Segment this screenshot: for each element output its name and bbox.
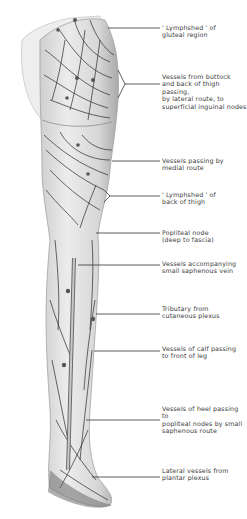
label-calf-vessels: Vessels of calf passing to front of leg: [162, 345, 247, 360]
leg-silhouette: [40, 19, 118, 507]
label-heel-vessels: Vessels of heel passing to popliteal nod…: [162, 405, 247, 435]
label-plantar-plexus-vessels: Lateral vessels from plantar plexus: [162, 467, 247, 482]
label-back-of-thigh-lymphshed: ' Lymphshed ' of back of thigh: [162, 191, 247, 206]
label-small-saphenous-vessels: Vessels accompanying small saphenous vei…: [162, 260, 247, 275]
label-lateral-route-vessels: Vessels from buttock and back of thigh p…: [162, 73, 247, 110]
label-popliteal-node: Popliteal node (deep to fascia): [162, 229, 247, 244]
label-cutaneous-plexus-tributary: Tributary from cutaneous plexus: [162, 305, 247, 320]
label-medial-route-vessels: Vessels passing by medial route: [162, 157, 247, 172]
label-gluteal-lymphshed: ' Lymphshed ' of gluteal region: [162, 24, 247, 39]
